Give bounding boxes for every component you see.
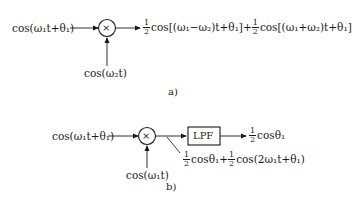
lpf-block: LPF — [193, 131, 213, 141]
diagram-a-lo-signal: cos(ω₂t) — [84, 68, 127, 79]
diagram-b-caption: b) — [166, 181, 176, 192]
diagram-a-output-expression: 12cos[(ω₁−ω₂)t+θ₁]+12cos[(ω₁+ω₂)t+θ₁] — [143, 19, 352, 36]
diagram-a-caption: a) — [168, 86, 178, 97]
diagram-b-mixer-icon: × — [142, 131, 150, 141]
diagram-a-mixer-icon: × — [102, 23, 110, 33]
fraction: 12 — [228, 151, 235, 168]
diagram-b-input-signal: cos(ω₁t+θ₁) — [52, 131, 114, 142]
fraction: 12 — [143, 19, 150, 36]
fraction: 12 — [252, 19, 259, 36]
diagram-a-input-signal: cos(ω₁t+θ₁) — [12, 23, 74, 34]
diagram-b-output-expression: 12cosθ₁ — [249, 127, 285, 144]
fraction: 12 — [183, 151, 190, 168]
diagram-b-mixer-output-expression: 12cosθ₁+12cos(2ω₁t+θ₁) — [183, 151, 305, 168]
fraction: 12 — [249, 127, 256, 144]
diagram-b-lo-signal: cos(ω₁t) — [126, 170, 169, 181]
